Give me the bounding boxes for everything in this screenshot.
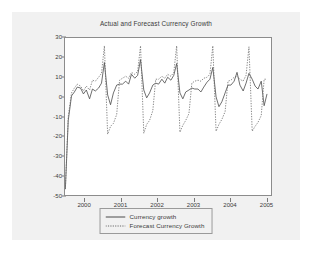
legend-item: Forecast Currency Growth (106, 221, 205, 230)
legend-swatch-dotted-icon (106, 223, 126, 229)
y-tick-label: -30 (53, 153, 62, 159)
y-tick-label: -10 (53, 114, 62, 120)
series-line (65, 46, 267, 189)
y-tick-label: -50 (53, 193, 62, 199)
x-tick-label: 2004 (223, 202, 236, 208)
legend-swatch-solid-icon (106, 214, 126, 220)
series-line (65, 60, 267, 190)
y-tick-label: 20 (55, 54, 62, 60)
legend-item: Currency growth (106, 212, 205, 221)
y-tick-label: 30 (55, 34, 62, 40)
series-canvas (65, 38, 271, 195)
y-tick-label: 10 (55, 74, 62, 80)
legend-label-forecast-currency-growth: Forecast Currency Growth (130, 222, 205, 229)
y-tick-label: -40 (53, 173, 62, 179)
x-tick-label: 2005 (260, 202, 273, 208)
legend-label-currency-growth: Currency growth (130, 213, 177, 220)
y-axis: 3020100-10-20-30-40-50 (38, 37, 62, 196)
legend: Currency growth Forecast Currency Growth (100, 208, 213, 234)
plot-area (64, 37, 272, 196)
figure-panel: Actual and Forecast Currency Growth 3020… (12, 12, 300, 240)
y-tick-label: -20 (53, 133, 62, 139)
x-tick-label: 2000 (77, 202, 90, 208)
chart-title: Actual and Forecast Currency Growth (12, 20, 300, 27)
